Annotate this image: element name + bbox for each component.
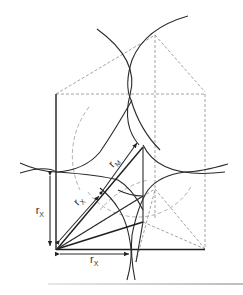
dashed-diagonal-3 (143, 222, 205, 249)
circle-arcs (20, 16, 228, 280)
label-rx-diagonal: rX (71, 193, 87, 209)
label-rm-diagonal: rM (106, 154, 123, 171)
dashed-diagonal-4 (136, 190, 155, 262)
dashed-diagonal-2 (155, 189, 205, 249)
page-rule (48, 283, 243, 285)
inner-short-line (136, 222, 143, 262)
arc-right-lower (131, 164, 228, 280)
rm-diagonal-line (57, 147, 143, 249)
arc-right-upper (143, 145, 225, 173)
label-rx-vertical: rX (36, 204, 45, 218)
dashed-roof-left (56, 35, 155, 94)
arc-upper-right (128, 16, 188, 150)
dashed-arc-left (72, 107, 89, 190)
dashed-roof-right (155, 35, 205, 92)
diagram-canvas: rX rX rX rM (0, 0, 243, 295)
rm-arrow-origin-dot (99, 191, 102, 194)
arc-upper-left (97, 29, 139, 145)
label-rx-horizontal: rX (90, 253, 99, 267)
